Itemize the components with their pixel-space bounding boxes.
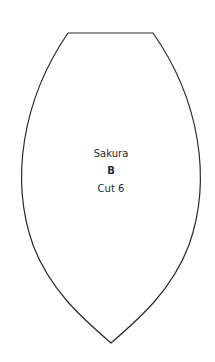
piece-letter: B [0,165,215,177]
pattern-outline [0,0,215,362]
piece-name: Sakura [0,148,215,160]
cut-instruction: Cut 6 [0,183,215,195]
